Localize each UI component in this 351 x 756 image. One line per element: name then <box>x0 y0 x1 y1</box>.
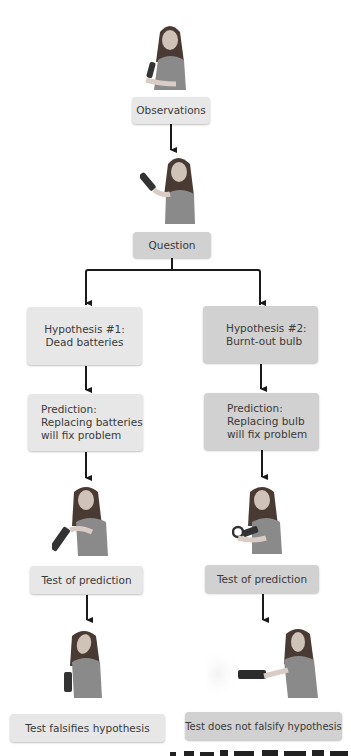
woman-observing-illustration <box>140 22 200 92</box>
prediction-2-line-1: Replacing bulb <box>227 415 305 428</box>
test-2-box: Test of prediction <box>205 565 319 593</box>
woman-thinking-illustration <box>140 154 205 226</box>
prediction-1-line-2: will fix problem <box>41 429 121 442</box>
hypothesis-2-title: Hypothesis #2: <box>226 322 307 335</box>
test-2-label: Test of prediction <box>217 573 307 586</box>
prediction-1-line-1: Replacing batteries <box>41 416 143 429</box>
hypothesis-2-box: Hypothesis #2: Burnt-out bulb <box>203 306 318 363</box>
woman-lit-flashlight-illustration <box>206 628 336 703</box>
hypothesis-1-title: Hypothesis #1: <box>44 323 125 336</box>
result-2-box: Test does not falsify hypothesis <box>185 712 342 740</box>
observations-label: Observations <box>136 104 205 117</box>
question-label: Question <box>149 239 196 252</box>
result-1-label: Test falsifies hypothesis <box>25 722 149 735</box>
prediction-2-box: Prediction: Replacing bulb will fix prob… <box>204 393 319 450</box>
test-1-label: Test of prediction <box>41 574 131 587</box>
hypothesis-1-box: Hypothesis #1: Dead batteries <box>27 307 142 365</box>
result-2-label: Test does not falsify hypothesis <box>185 720 342 733</box>
hypothesis-1-text: Dead batteries <box>46 336 124 349</box>
cropped-caption-fragment <box>170 748 351 756</box>
hypothesis-2-text: Burnt-out bulb <box>226 335 302 348</box>
question-box: Question <box>133 232 211 258</box>
prediction-1-title: Prediction: <box>41 403 97 416</box>
test-1-box: Test of prediction <box>30 566 143 594</box>
woman-replacing-bulb-illustration <box>232 486 292 556</box>
result-1-box: Test falsifies hypothesis <box>10 714 165 742</box>
woman-disappointed-illustration <box>60 630 110 702</box>
prediction-1-box: Prediction: Replacing batteries will fix… <box>28 394 143 451</box>
prediction-2-title: Prediction: <box>227 402 283 415</box>
prediction-2-line-2: will fix problem <box>227 428 307 441</box>
observations-box: Observations <box>132 97 210 124</box>
woman-replacing-batteries-illustration <box>52 486 117 558</box>
